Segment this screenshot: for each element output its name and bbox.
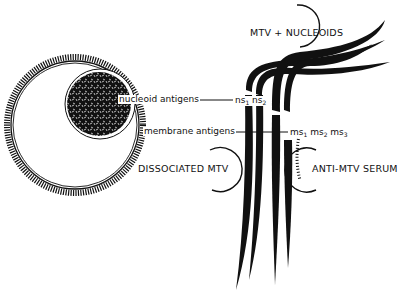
precipitin-bands — [236, 20, 390, 290]
membrane-antigens-label: membrane antigens — [143, 127, 236, 136]
right-well-label: ANTI-MTV SERUM — [312, 164, 398, 174]
nucleoid-core — [67, 72, 131, 136]
diagram-graphics — [0, 0, 402, 294]
top-well — [297, 5, 320, 47]
virus-particle — [7, 57, 143, 193]
nucleoid-antigens-label: nucleoid antigens — [118, 95, 200, 104]
ms-labels: ms1 ms2 ms3 — [289, 128, 349, 138]
top-well-label: MTV + NUCLEOIDS — [250, 28, 343, 38]
ns-labels: ns1 ns2 — [234, 96, 267, 106]
left-well-label: DISSOCIATED MTV — [138, 164, 229, 174]
diagram-canvas: nucleoid antigens membrane antigens ns1 … — [0, 0, 402, 294]
